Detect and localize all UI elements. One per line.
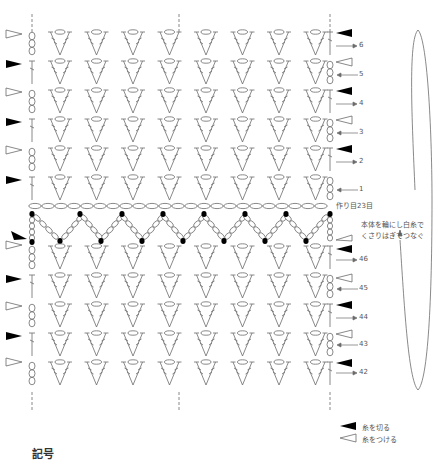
row-label-6: 6 <box>359 41 363 49</box>
upper-rows <box>29 30 333 200</box>
row-label-4: 4 <box>359 99 363 107</box>
row-label-2: 2 <box>359 157 363 165</box>
row-label-44: 44 <box>359 313 368 321</box>
join-note-line2: くさりはぎでつなぐ <box>361 232 424 241</box>
row-label-1: 1 <box>359 185 363 193</box>
lower-rows <box>29 244 333 385</box>
legend-join-yarn-label: 糸をつける <box>362 434 397 444</box>
foundation-chain <box>29 203 327 208</box>
symbol-heading: 記号 <box>32 445 54 461</box>
row-label-42: 42 <box>359 368 368 376</box>
foundation-chain-label: 作り目23目 <box>336 202 373 211</box>
loop-direction-indicator <box>398 30 432 390</box>
legend-icons <box>340 422 356 442</box>
right-yarn-markers <box>336 29 352 367</box>
row-label-43: 43 <box>359 340 368 348</box>
row-label-46: 46 <box>359 255 368 263</box>
filled-triangle-icon <box>340 422 356 430</box>
outline-triangle-icon <box>340 434 356 442</box>
legend-cut-yarn-label: 糸を切る <box>362 422 390 432</box>
left-yarn-markers <box>6 30 27 366</box>
zigzag-join-row <box>29 211 332 245</box>
join-note-line1: 本体を輪にし白糸で <box>361 221 424 230</box>
row-label-5: 5 <box>359 70 363 78</box>
row-label-45: 45 <box>359 284 368 292</box>
row-label-3: 3 <box>359 128 363 136</box>
